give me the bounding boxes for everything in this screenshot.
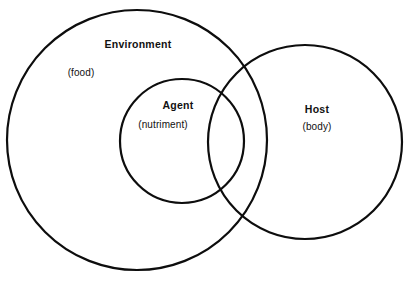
label-agent: Agent [143, 100, 213, 112]
circle-host [208, 45, 402, 239]
label-host-sub-wrap: (body) [282, 121, 352, 132]
label-environment-title: Environment [88, 39, 188, 51]
venn-diagram-canvas [0, 0, 408, 282]
label-environment-sub-wrap: (food) [47, 67, 115, 78]
label-agent-sub-wrap: (nutriment) [118, 119, 208, 130]
label-host-subtitle: (body) [282, 121, 352, 132]
label-agent-title: Agent [143, 100, 213, 112]
label-host-title: Host [282, 104, 352, 116]
label-environment-subtitle: (food) [47, 67, 115, 78]
venn-diagram-figure: Environment (food) Agent (nutriment) Hos… [0, 0, 408, 282]
label-environment: Environment [88, 39, 188, 51]
label-agent-subtitle: (nutriment) [118, 119, 208, 130]
circle-agent [120, 79, 244, 203]
label-host: Host [282, 104, 352, 116]
